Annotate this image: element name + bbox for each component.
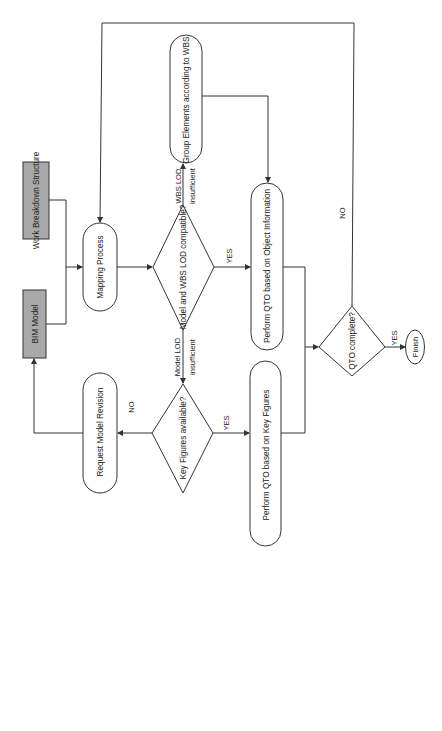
qto-yes-label: YES xyxy=(390,330,399,345)
request-revision-node[interactable]: Request Model Revision xyxy=(83,373,117,493)
qto-key-figures-node[interactable]: Perform QTO based on Key Figures xyxy=(250,361,281,546)
key-figures-label: Key Figures available? xyxy=(179,396,188,479)
qto-key-figures-label: Perform QTO based on Key Figures xyxy=(262,390,271,521)
qto-complete-decision[interactable]: QTO complete? xyxy=(319,306,385,376)
key-figures-decision[interactable]: Key Figures available? xyxy=(152,384,213,493)
qto-complete-label: QTO complete? xyxy=(348,312,357,370)
wbs-node[interactable]: Work Breakdown Structure xyxy=(23,151,49,249)
wbs-lod-label: WBS LOD xyxy=(174,168,183,204)
bim-model-node[interactable]: BIM Model xyxy=(23,290,46,358)
lod-compatible-label: Model and WBS LOD compatible? xyxy=(179,204,188,329)
edge-wbs-to-join xyxy=(49,200,66,267)
lod-yes-label: YES xyxy=(225,248,234,263)
edge-bim-to-join xyxy=(46,267,66,324)
kf-yes-label: YES xyxy=(222,415,231,430)
qto-no-label: NO xyxy=(338,207,347,218)
bim-model-label: BIM Model xyxy=(31,304,40,343)
mapping-process-label: Mapping Process xyxy=(96,235,105,298)
group-elements-node[interactable]: Group Elements according to WBS xyxy=(170,35,202,163)
edge-qto-object-to-complete xyxy=(283,267,305,347)
flowchart: BIM Model Work Breakdown Structure Mappi… xyxy=(0,0,442,731)
wbs-insufficient-label: insufficient xyxy=(188,167,197,204)
qto-object-node[interactable]: Perform QTO based on Object Information xyxy=(251,183,283,350)
finish-label: Finish xyxy=(411,337,420,357)
edge-revision-to-bim xyxy=(34,359,83,433)
mapping-process-node[interactable]: Mapping Process xyxy=(83,223,117,311)
qto-object-label: Perform QTO based on Object Information xyxy=(263,189,272,344)
edge-group-to-qto-object xyxy=(202,96,268,182)
wbs-label: Work Breakdown Structure xyxy=(32,151,41,249)
model-insufficient-label: insufficient xyxy=(188,338,197,375)
lod-compatible-decision[interactable]: Model and WBS LOD compatible? xyxy=(153,204,214,330)
group-elements-label: Group Elements according to WBS xyxy=(182,36,191,164)
edge-qto-kf-to-complete xyxy=(281,347,305,433)
request-revision-label: Request Model Revision xyxy=(96,387,105,476)
finish-node[interactable]: Finish xyxy=(406,330,425,364)
model-lod-label: Model LOD xyxy=(173,337,182,376)
kf-no-label: NO xyxy=(127,401,136,412)
